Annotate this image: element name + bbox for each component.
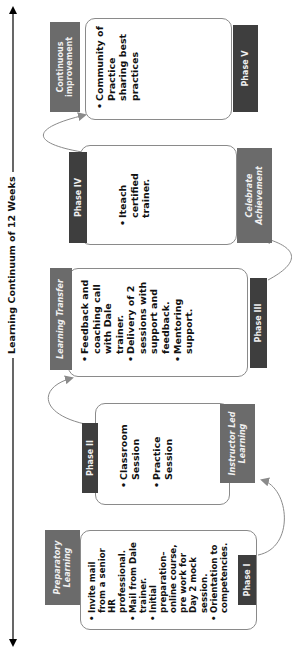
connector-arrow-2-3: [48, 378, 96, 426]
bullet: Practice Session: [151, 412, 176, 488]
phase-4-card: Iteach certified trainer.: [80, 145, 237, 245]
phase-1-label: Phase I: [238, 555, 256, 605]
phase-5-card: Community of Practice sharing best pract…: [85, 18, 232, 120]
phase-2-category-header: Instructor Led Learning: [220, 404, 255, 483]
phase-3-category-header: Learning Transfer: [50, 268, 72, 370]
phase-5-bullets: Community of Practice sharing best pract…: [94, 25, 140, 109]
phase-3-card: Feedback and coaching call with Dale tra…: [68, 268, 248, 377]
bullet: Community of Practice sharing best pract…: [94, 25, 140, 109]
connector-arrow-1-2: [258, 480, 284, 555]
phase-2-bullets: Classroom Session Practice Session: [118, 412, 175, 488]
phase-3-label: Phase III: [250, 278, 267, 368]
phase-1-category-header: Preparatory Learning: [45, 530, 80, 605]
connector-arrow-4-5: [43, 115, 85, 152]
phase-4-category-header: Celebrate Achievement: [237, 148, 272, 243]
bullet: Iteach certified trainer.: [117, 152, 152, 226]
phase-2-label: Phase II: [82, 423, 98, 493]
bullet: Feedback and coaching call with Dale tra…: [79, 275, 125, 362]
phase-4-label: Phase IV: [69, 152, 87, 243]
phase-3-bullets: Feedback and coaching call with Dale tra…: [79, 275, 195, 362]
learning-continuum-diagram: Learning Continuum of 12 Weeks Invite ma…: [0, 0, 303, 658]
bullet: Initial preparation–online course, pre w…: [148, 537, 209, 621]
phase-1-card: Invite mail from a senior HR professiona…: [80, 530, 257, 630]
connector-arrow-3-4: [264, 238, 292, 280]
phase-5-label: Phase V: [233, 25, 258, 112]
phase-5-category-header: Continuous improvement: [50, 22, 80, 112]
phase-2-card: Classroom Session Practice Session: [95, 403, 230, 505]
phase-4-bullets: Iteach certified trainer.: [117, 152, 152, 226]
bullet: Classroom Session: [118, 412, 143, 488]
bullet: Delivery of 2 sessions with support and …: [125, 275, 171, 362]
bullet: Orientation to competencies.: [209, 537, 229, 621]
bullet: Mail from Dale trainer.: [128, 537, 148, 621]
phase-1-bullets: Invite mail from a senior HR professiona…: [87, 537, 229, 621]
diagram-title: Learning Continuum of 12 Weeks: [6, 172, 17, 358]
bullet: Mentoring support.: [172, 275, 195, 362]
bullet: Invite mail from a senior HR professiona…: [87, 537, 128, 621]
